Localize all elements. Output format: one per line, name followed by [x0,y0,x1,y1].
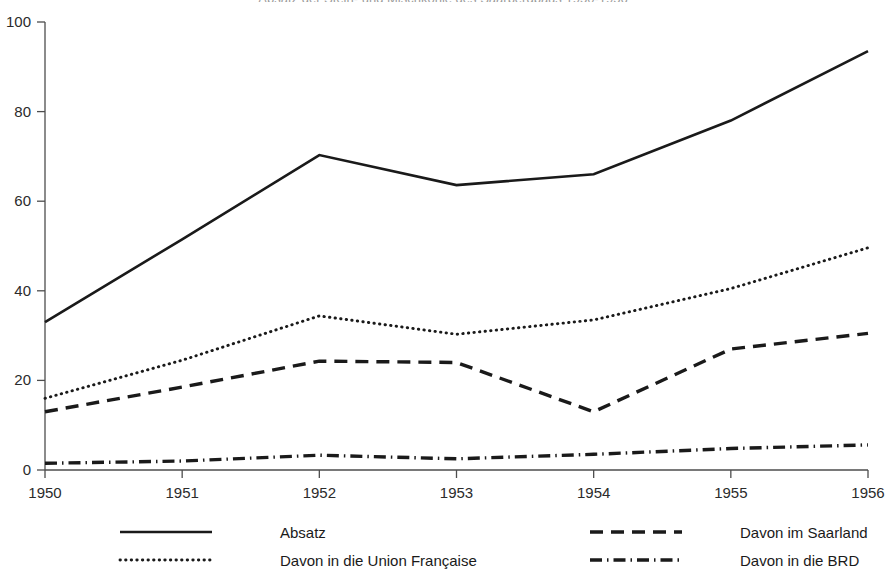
legend-swatch [588,524,738,540]
x-tick-label: 1955 [714,484,747,501]
x-axis [45,470,868,478]
legend-swatch [588,552,738,568]
legend-label[interactable]: Absatz [278,524,588,541]
x-tick-labels: 1950195119521953195419551956 [28,484,884,501]
y-axis-ticks [37,22,45,470]
legend-swatch [118,552,278,568]
y-tick-label: 60 [14,192,31,209]
legend-sample-dashdot [588,552,684,568]
y-tick-label: 40 [14,282,31,299]
chart-container: Absatz der Stein- und Mischkohle des Saa… [0,0,886,572]
y-tick-label: 20 [14,371,31,388]
legend-label[interactable]: Davon in die BRD [738,552,878,569]
y-tick-label: 100 [6,13,31,30]
x-tick-label: 1951 [165,484,198,501]
legend-sample-dashed [588,524,684,540]
x-tick-label: 1950 [28,484,61,501]
legend-sample-solid [118,524,214,540]
y-axis [37,22,45,470]
chart-legend: AbsatzDavon im SaarlandDavon in die Unio… [118,518,878,572]
x-tick-label: 1952 [303,484,336,501]
y-tick-label: 0 [23,461,31,478]
series-line-solid [45,51,868,322]
x-tick-label: 1953 [440,484,473,501]
y-tick-label: 80 [14,103,31,120]
y-tick-labels: 020406080100 [6,13,31,478]
series-line-dashdot [45,445,868,463]
legend-swatch [118,524,278,540]
legend-label[interactable]: Davon im Saarland [738,524,878,541]
legend-label[interactable]: Davon in die Union Française [278,552,588,569]
series-line-dotted [45,248,868,399]
chart-plot-area: 020406080100 195019511952195319541955195… [0,0,886,515]
legend-sample-dotted [118,552,214,568]
data-series-group [45,51,868,463]
x-tick-label: 1956 [851,484,884,501]
x-axis-ticks [45,470,868,478]
x-tick-label: 1954 [577,484,610,501]
series-line-dashed [45,333,868,411]
